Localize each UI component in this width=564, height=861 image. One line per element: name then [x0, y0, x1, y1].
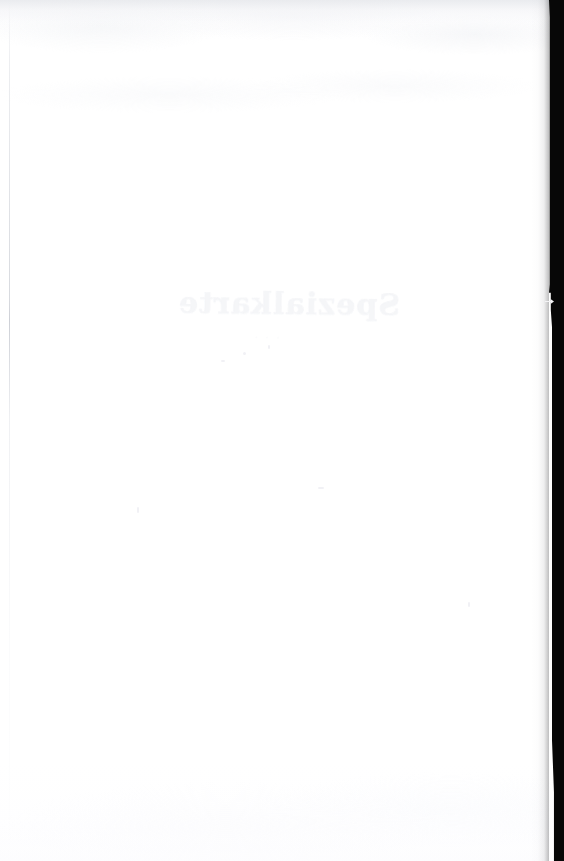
paper-speck [468, 602, 470, 607]
scanned-page: Spezialkarte · · · [0, 0, 564, 861]
paper-speck [137, 507, 139, 513]
paper-speck [318, 487, 324, 489]
paper-grain-texture [0, 0, 564, 861]
paper-speck [243, 352, 246, 355]
gutter-shadow [531, 0, 549, 861]
binding-edge-line [9, 0, 10, 861]
bottom-edge-haze [0, 821, 564, 861]
paper-speck [268, 345, 270, 349]
top-edge-haze [0, 0, 564, 32]
paper-speck [221, 360, 225, 362]
